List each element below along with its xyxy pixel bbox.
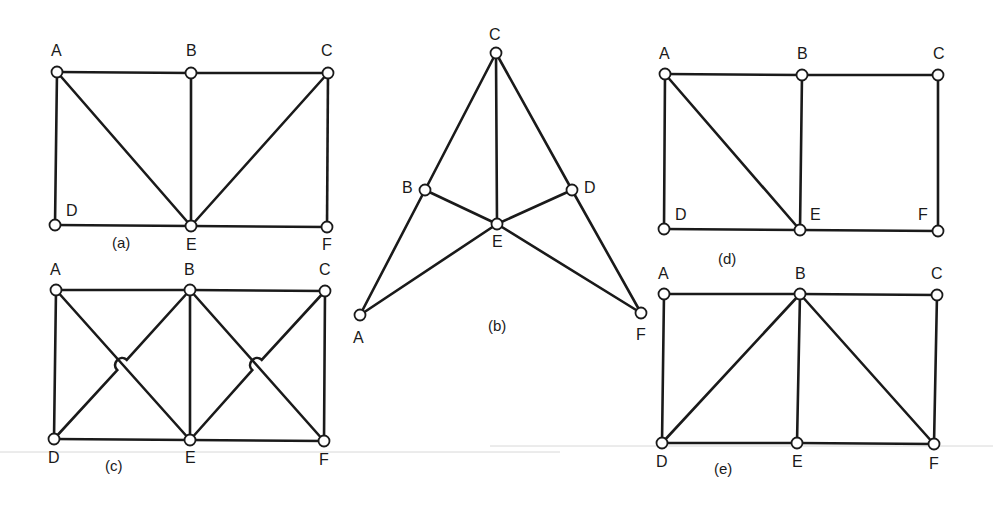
edge-de bbox=[664, 229, 800, 230]
edge-de bbox=[54, 439, 190, 440]
node-d bbox=[49, 434, 60, 445]
edge-bc bbox=[190, 290, 325, 291]
node-label-c: C bbox=[933, 45, 945, 62]
node-label-c: C bbox=[489, 26, 501, 43]
node-label-d: D bbox=[48, 449, 60, 466]
edge-ef bbox=[797, 443, 934, 444]
edge-be bbox=[797, 294, 800, 443]
edge-bc bbox=[800, 294, 937, 295]
diagram-caption: (d) bbox=[718, 250, 736, 267]
node-e bbox=[186, 221, 197, 232]
node-label-f: F bbox=[636, 326, 646, 343]
node-f bbox=[322, 222, 333, 233]
diagram-c: ABCDEF(c) bbox=[48, 261, 331, 474]
edge-be bbox=[425, 190, 497, 224]
diagram-d: ABCDEF(d) bbox=[659, 45, 945, 267]
node-b bbox=[186, 68, 197, 79]
diagram-caption: (b) bbox=[488, 317, 506, 334]
edge-ef bbox=[497, 224, 641, 313]
diagram-b: CBDEAF(b) bbox=[353, 26, 647, 346]
edge-cf bbox=[934, 295, 937, 444]
node-d bbox=[50, 220, 61, 231]
diagram-a: ABCDEF(a) bbox=[50, 42, 334, 253]
edge-cd bbox=[496, 53, 572, 190]
edge-de bbox=[497, 190, 572, 224]
node-a bbox=[51, 285, 62, 296]
node-a bbox=[659, 289, 670, 300]
node-label-b: B bbox=[795, 265, 806, 282]
node-label-d: D bbox=[584, 179, 596, 196]
edge-de bbox=[55, 225, 191, 226]
node-f bbox=[933, 226, 944, 237]
node-label-b: B bbox=[184, 261, 195, 278]
node-c bbox=[491, 48, 502, 59]
node-f bbox=[636, 308, 647, 319]
diagram-caption: (c) bbox=[105, 457, 123, 474]
node-c bbox=[933, 70, 944, 81]
edge-ce bbox=[191, 73, 328, 226]
edge-ad bbox=[662, 294, 664, 443]
node-label-c: C bbox=[319, 261, 331, 278]
edge-ef bbox=[800, 230, 938, 231]
node-label-a: A bbox=[50, 261, 61, 278]
node-label-f: F bbox=[319, 451, 329, 468]
node-label-e: E bbox=[492, 233, 503, 250]
node-label-e: E bbox=[810, 206, 821, 223]
edge-ad bbox=[664, 74, 665, 229]
node-label-d: D bbox=[66, 202, 78, 219]
edge-ae bbox=[360, 224, 497, 315]
edge-ad bbox=[55, 72, 57, 225]
edge-ab bbox=[57, 72, 191, 73]
node-label-a: A bbox=[658, 265, 669, 282]
node-b bbox=[420, 185, 431, 196]
node-label-e: E bbox=[792, 453, 803, 470]
edge-be bbox=[800, 75, 802, 230]
edge-ba bbox=[360, 190, 425, 315]
node-label-e: E bbox=[186, 236, 197, 253]
node-a bbox=[355, 310, 366, 321]
node-e bbox=[795, 225, 806, 236]
diagram-e: ABCDEF(e) bbox=[656, 265, 943, 477]
edge-cf bbox=[324, 291, 325, 441]
node-d bbox=[659, 224, 670, 235]
node-c bbox=[320, 286, 331, 297]
edge-df bbox=[572, 190, 641, 313]
node-label-a: A bbox=[659, 45, 670, 62]
edge-ab bbox=[665, 74, 802, 75]
node-label-d: D bbox=[656, 453, 668, 470]
node-label-b: B bbox=[186, 42, 197, 59]
node-label-f: F bbox=[322, 236, 332, 253]
edge-ef bbox=[191, 226, 327, 227]
node-b bbox=[185, 285, 196, 296]
node-c bbox=[323, 68, 334, 79]
node-e bbox=[185, 435, 196, 446]
node-label-a: A bbox=[353, 329, 364, 346]
node-label-c: C bbox=[321, 42, 333, 59]
node-b bbox=[797, 70, 808, 81]
edge-ef bbox=[190, 440, 324, 441]
edge-ce bbox=[496, 53, 497, 224]
diagram-caption: (e) bbox=[714, 460, 732, 477]
node-label-c: C bbox=[931, 265, 943, 282]
node-label-b: B bbox=[797, 45, 808, 62]
node-label-e: E bbox=[185, 449, 196, 466]
node-label-b: B bbox=[402, 179, 413, 196]
node-f bbox=[929, 439, 940, 450]
node-label-d: D bbox=[675, 206, 687, 223]
node-d bbox=[567, 185, 578, 196]
node-e bbox=[792, 438, 803, 449]
diagram-caption: (a) bbox=[112, 234, 130, 251]
edge-ad bbox=[54, 290, 56, 439]
node-e bbox=[492, 219, 503, 230]
node-label-f: F bbox=[918, 206, 928, 223]
edge-cf bbox=[327, 73, 328, 227]
edge-bd bbox=[662, 294, 800, 443]
edge-bf bbox=[800, 294, 934, 444]
node-b bbox=[795, 289, 806, 300]
node-label-a: A bbox=[51, 42, 62, 59]
node-a bbox=[660, 69, 671, 80]
graph-figure: ABCDEF(a)CBDEAF(b)ABCDEF(c)ABCDEF(d)ABCD… bbox=[0, 0, 993, 506]
node-d bbox=[657, 438, 668, 449]
node-label-f: F bbox=[929, 455, 939, 472]
edge-cb bbox=[425, 53, 496, 190]
